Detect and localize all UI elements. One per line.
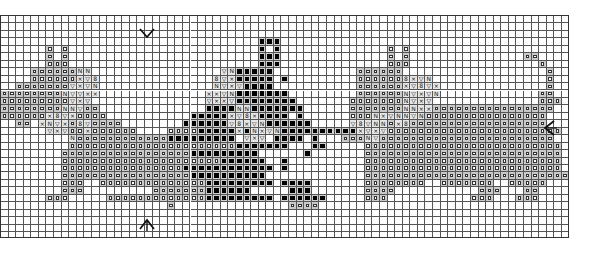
stitch-cell xyxy=(183,232,191,238)
filled-square-icon xyxy=(266,83,273,89)
stitch-cell xyxy=(16,143,24,150)
stitch-cell xyxy=(137,135,145,142)
stitch-cell xyxy=(213,46,221,53)
stitch-cell xyxy=(115,23,123,30)
stitch-cell xyxy=(69,217,77,224)
stitch-cell xyxy=(213,143,221,150)
stitch-cell xyxy=(494,143,502,150)
open-square-icon xyxy=(380,165,387,171)
stitch-cell xyxy=(554,150,562,157)
stitch-cell xyxy=(122,232,130,238)
stitch-cell xyxy=(562,91,569,98)
stitch-cell xyxy=(198,158,206,165)
stitch-cell xyxy=(168,23,176,30)
open-square-icon xyxy=(509,105,516,111)
stitch-cell xyxy=(9,120,17,127)
stitch-cell xyxy=(251,143,259,150)
stitch-cell xyxy=(168,195,176,202)
stitch-cell xyxy=(191,31,199,38)
stitch-cell xyxy=(175,225,183,232)
stitch-cell xyxy=(213,135,221,142)
filled-square-icon xyxy=(259,53,266,59)
open-square-icon xyxy=(160,158,167,164)
stitch-cell xyxy=(547,232,555,238)
triangle-down-icon: ▽ xyxy=(236,83,243,89)
open-square-icon xyxy=(479,113,486,119)
stitch-cell xyxy=(554,180,562,187)
stitch-cell xyxy=(554,210,562,217)
stitch-cell xyxy=(236,202,244,209)
stitch-cell xyxy=(562,165,569,172)
stitch-cell xyxy=(206,53,214,60)
stitch-cell xyxy=(39,68,47,75)
stitch-cell xyxy=(516,187,524,194)
n-glyph-icon: N xyxy=(403,113,410,119)
triangle-down-icon: ▽ xyxy=(425,91,432,97)
triangle-down-icon: ▽ xyxy=(425,83,432,89)
stitch-cell xyxy=(357,46,365,53)
filled-square-icon xyxy=(274,91,281,97)
stitch-cell xyxy=(160,61,168,68)
stitch-cell xyxy=(425,16,433,23)
stitch-cell xyxy=(327,172,335,179)
stitch-cell xyxy=(319,91,327,98)
stitch-cell xyxy=(304,31,312,38)
stitch-cell xyxy=(107,180,115,187)
stitch-cell xyxy=(509,113,517,120)
stitch-cell xyxy=(175,98,183,105)
open-square-icon xyxy=(501,143,508,149)
stitch-cell xyxy=(24,16,32,23)
stitch-cell xyxy=(16,180,24,187)
stitch-cell xyxy=(236,16,244,23)
filled-square-icon xyxy=(236,76,243,82)
stitch-cell xyxy=(494,68,502,75)
stitch-cell xyxy=(16,61,24,68)
open-square-icon xyxy=(486,150,493,156)
open-square-icon xyxy=(39,105,46,111)
filled-square-icon xyxy=(297,105,304,111)
stitch-cell xyxy=(244,150,252,157)
stitch-cell xyxy=(191,113,199,120)
stitch-cell: × xyxy=(54,128,62,135)
stitch-cell xyxy=(524,16,532,23)
stitch-cell xyxy=(145,172,153,179)
stitch-cell xyxy=(494,172,502,179)
open-square-icon xyxy=(312,202,319,208)
stitch-cell xyxy=(266,61,274,68)
open-square-icon xyxy=(395,165,402,171)
stitch-cell xyxy=(479,128,487,135)
stitch-cell xyxy=(62,76,70,83)
filled-square-icon xyxy=(213,128,220,134)
open-square-icon xyxy=(479,158,486,164)
filled-square-icon xyxy=(244,180,251,186)
open-square-icon xyxy=(388,165,395,171)
stitch-cell xyxy=(524,53,532,60)
stitch-cell xyxy=(456,91,464,98)
stitch-cell xyxy=(532,23,540,30)
open-square-icon xyxy=(463,172,470,178)
stitch-cell xyxy=(168,53,176,60)
open-square-icon xyxy=(175,150,182,156)
stitch-cell xyxy=(100,150,108,157)
stitch-cell xyxy=(130,38,138,45)
stitch-cell xyxy=(274,38,282,45)
stitch-cell xyxy=(418,172,426,179)
filled-square-icon xyxy=(198,150,205,156)
open-square-icon xyxy=(372,172,379,178)
stitch-cell xyxy=(168,46,176,53)
open-square-icon xyxy=(463,150,470,156)
filled-square-icon xyxy=(281,105,288,111)
stitch-cell xyxy=(221,187,229,194)
stitch-cell xyxy=(1,61,9,68)
open-square-icon xyxy=(77,150,84,156)
stitch-cell xyxy=(168,225,176,232)
filled-square-icon xyxy=(213,135,220,141)
stitch-cell xyxy=(441,172,449,179)
stitch-cell xyxy=(456,217,464,224)
stitch-cell xyxy=(501,113,509,120)
stitch-cell xyxy=(100,113,108,120)
stitch-cell xyxy=(410,210,418,217)
stitch-cell xyxy=(221,23,229,30)
open-square-icon xyxy=(115,180,122,186)
stitch-cell: × xyxy=(425,105,433,112)
